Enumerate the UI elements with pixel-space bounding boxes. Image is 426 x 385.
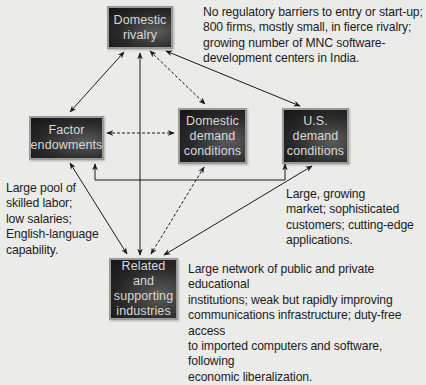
- node-domestic-rivalry: Domestic rivalry: [107, 6, 173, 49]
- note-related-supporting: Large network of public and private educ…: [188, 262, 426, 385]
- note-rivalry: No regulatory barriers to entry or start…: [203, 5, 423, 67]
- node-label: Domestic rivalry: [114, 13, 167, 43]
- note-factor-endowments: Large pool of skilled labor; low salarie…: [6, 181, 99, 258]
- arrow-factor-us-demand: [95, 164, 285, 180]
- node-domestic-demand: Domestic demand conditions: [178, 108, 247, 164]
- node-label: U.S. demand conditions: [287, 114, 344, 159]
- arrow-rivalry-domestic-demand: [150, 51, 205, 104]
- node-us-demand: U.S. demand conditions: [282, 108, 349, 164]
- node-factor-endowments: Factor endowments: [29, 116, 104, 160]
- node-related-supporting: Related and supporting industries: [109, 258, 178, 320]
- node-label: Related and supporting industries: [111, 259, 176, 319]
- node-label: Domestic demand conditions: [184, 114, 241, 159]
- note-us-demand: Large, growing market; sophisticated cus…: [286, 187, 414, 249]
- node-label: Factor endowments: [31, 123, 103, 153]
- arrow-rivalry-factor: [70, 52, 124, 112]
